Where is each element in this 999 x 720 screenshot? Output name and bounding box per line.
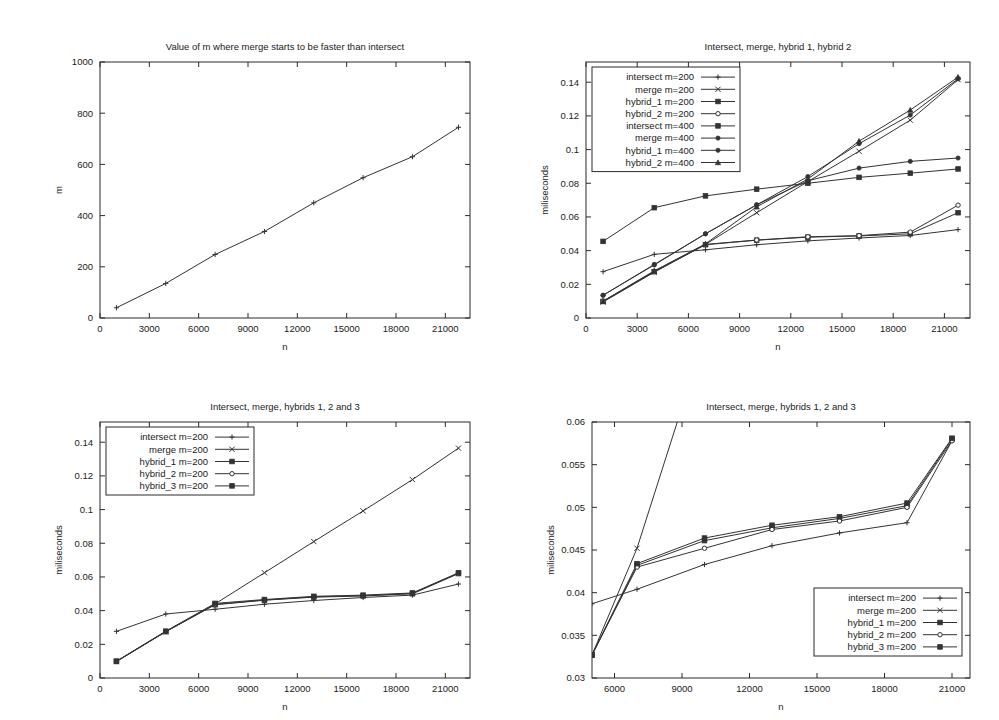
chart-panel-crossover: Value of m where merge starts to be fast… (0, 0, 500, 360)
marker-plus (702, 562, 707, 567)
marker-plus (634, 587, 639, 592)
legend-label: hybrid_3 m=200 (848, 641, 916, 652)
marker-square (262, 597, 267, 602)
marker-square (702, 536, 707, 541)
marker-plus (114, 305, 119, 310)
legend-label: merge m=200 (635, 84, 694, 95)
y-tick-label: 0.12 (75, 470, 94, 481)
marker-circle-open (806, 235, 810, 239)
marker-square (635, 561, 640, 566)
chart-title: Intersect, merge, hybrids 1, 2 and 3 (210, 401, 359, 412)
marker-plus (114, 629, 119, 634)
marker-cross (634, 546, 639, 551)
x-tick-label: 0 (97, 683, 102, 694)
marker-square (590, 653, 595, 658)
legend-label: hybrid_1 m=400 (626, 145, 694, 156)
marker-square (938, 645, 943, 650)
marker-plus (955, 227, 960, 232)
y-tick-label: 200 (77, 261, 93, 272)
series-line (116, 574, 458, 662)
y-tick-label: 0.04 (75, 605, 94, 616)
marker-square (938, 620, 943, 625)
chart-svg-4: Intersect, merge, hybrids 1, 2 and 30.03… (499, 360, 999, 720)
y-tick-label: 0.02 (75, 639, 94, 650)
marker-circle-open (754, 238, 758, 242)
chart-legend: intersect m=200merge m=200hybrid_1 m=200… (814, 588, 962, 656)
marker-square (770, 523, 775, 528)
y-tick-label: 800 (77, 108, 93, 119)
y-tick-label: 0.045 (561, 544, 585, 555)
marker-circle-open (956, 203, 960, 207)
marker-circle-open (230, 472, 234, 476)
marker-circle (716, 136, 720, 140)
marker-circle-open (908, 230, 912, 234)
marker-circle (703, 232, 707, 236)
marker-circle-open (857, 233, 861, 237)
x-tick-label: 9000 (237, 683, 258, 694)
x-tick-label: 3000 (627, 323, 648, 334)
marker-circle (601, 293, 605, 297)
x-tick-label: 9000 (729, 323, 750, 334)
marker-circle-open (837, 519, 841, 523)
y-axis-label: miliseconds (539, 165, 550, 215)
marker-triangle (908, 107, 913, 112)
legend-label: hybrid_1 m=200 (626, 96, 694, 107)
marker-square (652, 205, 657, 210)
marker-square (361, 593, 366, 598)
marker-cross (311, 539, 316, 544)
y-tick-label: 0.02 (561, 279, 580, 290)
marker-square (905, 501, 910, 506)
marker-square (716, 124, 721, 129)
x-tick-label: 9000 (237, 323, 258, 334)
chart-legend: intersect m=200merge m=200hybrid_1 m=200… (592, 67, 740, 172)
chart-panel-hybrid12: Intersect, merge, hybrid 1, hybrid 200.0… (499, 0, 999, 360)
y-tick-label: 0.12 (561, 110, 580, 121)
series-6 (601, 156, 960, 297)
y-tick-label: 0.14 (561, 77, 580, 88)
x-tick-label: 15000 (804, 683, 830, 694)
x-tick-label: 12000 (284, 683, 310, 694)
marker-square (837, 514, 842, 519)
y-tick-label: 0.06 (561, 211, 580, 222)
marker-cross (262, 570, 267, 575)
y-tick-label: 0.035 (561, 630, 585, 641)
y-tick-label: 0.04 (561, 245, 580, 256)
x-axis-label: n (282, 341, 287, 352)
marker-triangle (856, 139, 861, 144)
series-0 (589, 438, 954, 606)
y-tick-label: 600 (77, 159, 93, 170)
x-tick-label: 6000 (678, 323, 699, 334)
marker-circle-open (702, 546, 706, 550)
y-tick-label: 0.1 (80, 504, 93, 515)
marker-plus (904, 520, 909, 525)
series-2 (114, 571, 461, 664)
series-2 (601, 210, 961, 303)
marker-circle (857, 166, 861, 170)
legend-label: intersect m=200 (140, 431, 208, 442)
marker-plus (163, 281, 168, 286)
marker-circle-open (905, 505, 909, 509)
x-tick-label: 15000 (333, 683, 359, 694)
marker-square (754, 187, 759, 192)
x-tick-label: 6000 (188, 323, 209, 334)
marker-plus (703, 247, 708, 252)
marker-plus (652, 252, 657, 257)
chart-panel-hybrid123: Intersect, merge, hybrids 1, 2 and 300.0… (0, 360, 500, 720)
chart-svg-2: Intersect, merge, hybrid 1, hybrid 200.0… (499, 0, 999, 360)
x-axis-label: n (778, 701, 783, 712)
y-tick-label: 0 (88, 312, 93, 323)
marker-square (230, 484, 235, 489)
marker-plus (163, 611, 168, 616)
x-axis-label: n (282, 701, 287, 712)
x-tick-label: 21000 (931, 323, 957, 334)
legend-label: hybrid_2 m=400 (626, 157, 694, 168)
legend-label: hybrid_1 m=200 (140, 456, 208, 467)
x-tick-label: 12000 (284, 323, 310, 334)
marker-plus (456, 125, 461, 130)
marker-plus (213, 252, 218, 257)
legend-label: merge m=400 (635, 132, 694, 143)
marker-square (956, 167, 961, 172)
marker-circle (716, 148, 720, 152)
marker-cross (908, 118, 913, 123)
marker-circle (652, 262, 656, 266)
